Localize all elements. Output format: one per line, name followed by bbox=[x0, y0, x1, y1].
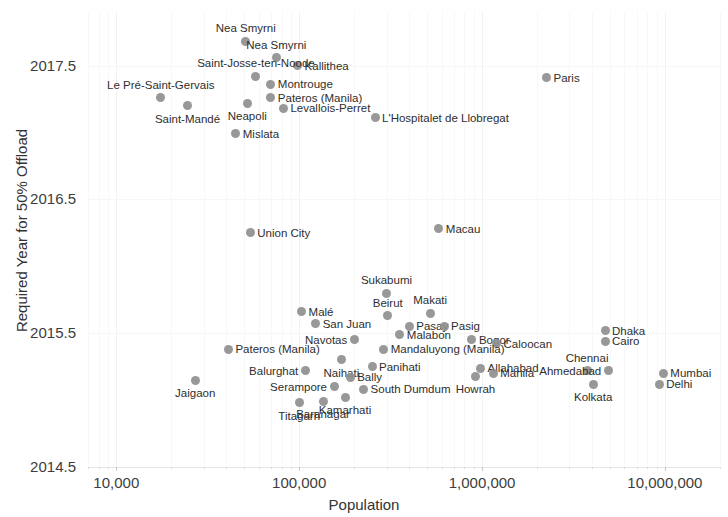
data-point bbox=[471, 372, 480, 381]
data-point-label: Levallois-Perret bbox=[290, 102, 370, 114]
x-gridline bbox=[665, 12, 666, 467]
data-point-label: Serampore bbox=[270, 381, 327, 393]
x-axis-tick bbox=[624, 467, 625, 469]
x-gridline bbox=[454, 12, 455, 467]
y-gridline bbox=[88, 199, 720, 200]
data-point-label: Kolkata bbox=[574, 391, 612, 403]
x-gridline bbox=[99, 12, 100, 467]
data-point-label: L'Hospitalet de Llobregat bbox=[382, 112, 509, 124]
x-axis-tick bbox=[354, 467, 355, 469]
data-point-label: Panihati bbox=[379, 361, 421, 373]
x-gridline bbox=[88, 12, 89, 467]
x-gridline bbox=[387, 12, 388, 467]
data-point-label: Paris bbox=[553, 72, 579, 84]
x-axis-tick bbox=[442, 467, 443, 469]
x-axis-tick bbox=[637, 467, 638, 469]
data-point-label: Malabon bbox=[407, 329, 451, 341]
data-point bbox=[330, 382, 339, 391]
data-point-label: Chennai bbox=[566, 352, 609, 364]
data-point bbox=[604, 366, 613, 375]
data-point bbox=[359, 385, 368, 394]
data-point bbox=[476, 364, 485, 373]
data-point bbox=[301, 366, 310, 375]
data-point-label: Pateros (Manila) bbox=[235, 343, 319, 355]
data-point bbox=[601, 326, 610, 335]
x-axis-tick bbox=[282, 467, 283, 469]
x-axis-tick bbox=[226, 467, 227, 469]
x-gridline bbox=[226, 12, 227, 467]
data-point-label: Titagarh bbox=[278, 410, 320, 422]
data-point-label: Nea Smyrni bbox=[216, 22, 276, 34]
x-axis-tick bbox=[116, 467, 117, 471]
x-axis-tick bbox=[259, 467, 260, 469]
x-gridline bbox=[482, 12, 483, 467]
data-point-label: Saint-Mandé bbox=[155, 113, 220, 125]
data-point-label: Pasig bbox=[451, 320, 480, 332]
x-gridline bbox=[537, 12, 538, 467]
x-gridline bbox=[409, 12, 410, 467]
x-axis-tick-label: 10,000,000 bbox=[627, 474, 702, 491]
data-point-label: Nea Smyrni bbox=[246, 39, 306, 51]
data-point-label: Malé bbox=[309, 306, 334, 318]
data-point bbox=[295, 398, 304, 407]
data-point bbox=[191, 376, 200, 385]
data-point bbox=[601, 337, 610, 346]
y-axis-tick-label: 2017.5 bbox=[0, 58, 76, 74]
x-axis-tick bbox=[88, 467, 89, 469]
x-axis-tick bbox=[171, 467, 172, 469]
data-point bbox=[379, 345, 388, 354]
data-point-label: Mandaluyong (Manila) bbox=[391, 343, 505, 355]
x-gridline bbox=[647, 12, 648, 467]
x-axis-tick bbox=[291, 467, 292, 469]
y-axis-tick-label: 2014.5 bbox=[0, 459, 76, 475]
x-axis-tick bbox=[474, 467, 475, 469]
x-axis-tick bbox=[610, 467, 611, 469]
data-point-label: Howrah bbox=[456, 383, 496, 395]
data-point bbox=[589, 380, 598, 389]
data-point-label: South Dumdum bbox=[371, 383, 451, 395]
x-axis-tick bbox=[409, 467, 410, 469]
x-axis-tick bbox=[537, 467, 538, 469]
data-point bbox=[489, 369, 498, 378]
data-point bbox=[655, 380, 664, 389]
data-point-label: Cairo bbox=[612, 335, 639, 347]
x-gridline bbox=[464, 12, 465, 467]
x-axis-tick bbox=[482, 467, 483, 471]
x-axis-tick bbox=[271, 467, 272, 469]
x-gridline bbox=[354, 12, 355, 467]
x-gridline bbox=[442, 12, 443, 467]
data-point-label: Jaigaon bbox=[175, 387, 215, 399]
x-axis-tick bbox=[657, 467, 658, 469]
data-point-label: Sukabumi bbox=[361, 274, 412, 286]
data-point-label: Bally bbox=[357, 371, 382, 383]
x-axis-tick bbox=[464, 467, 465, 469]
x-axis-tick bbox=[204, 467, 205, 469]
x-axis-title: Population bbox=[0, 496, 728, 513]
y-axis-tick-label: 2015.5 bbox=[0, 325, 76, 341]
scatter-chart: Required Year for 50% Offload Population… bbox=[0, 0, 728, 517]
data-point-label: Saint-Josse-ten-Noode bbox=[197, 57, 315, 69]
x-axis-tick bbox=[108, 467, 109, 469]
x-gridline bbox=[259, 12, 260, 467]
x-axis-tick bbox=[454, 467, 455, 469]
data-point-label: Neapoli bbox=[228, 110, 267, 122]
data-point-label: Le Pré-Saint-Gervais bbox=[107, 79, 214, 91]
data-point bbox=[341, 393, 350, 402]
x-gridline bbox=[624, 12, 625, 467]
x-axis-tick bbox=[299, 467, 300, 471]
data-point-label: Ahmedabad bbox=[539, 365, 601, 377]
data-point bbox=[346, 373, 355, 382]
data-point bbox=[659, 369, 668, 378]
x-axis-tick bbox=[720, 467, 721, 469]
data-point-label: Delhi bbox=[666, 378, 692, 390]
x-axis-tick bbox=[244, 467, 245, 469]
x-gridline bbox=[720, 12, 721, 467]
x-axis-tick bbox=[99, 467, 100, 469]
data-point bbox=[243, 99, 252, 108]
x-gridline bbox=[657, 12, 658, 467]
data-point-label: Union City bbox=[257, 227, 310, 239]
y-gridline bbox=[88, 66, 720, 67]
data-point-label: Makati bbox=[413, 294, 447, 306]
x-axis-tick-label: 100,000 bbox=[272, 474, 326, 491]
data-point bbox=[224, 345, 233, 354]
